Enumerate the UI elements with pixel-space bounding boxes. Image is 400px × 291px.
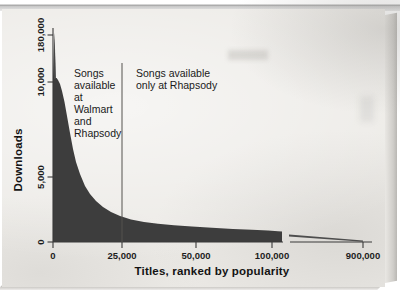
y-axis-tick-labels: 0 5,000 10,000 180,000 xyxy=(35,18,46,245)
y-axis-ticks xyxy=(48,35,54,242)
x-axis-ticks xyxy=(53,242,363,248)
annotation-left-line-4: Walmart xyxy=(74,103,113,115)
annotation-left-line-2: available xyxy=(74,79,116,91)
x-axis-title: Titles, ranked by popularity xyxy=(135,265,290,277)
far-tail-path xyxy=(289,235,363,242)
annotation-right: Songs available only at Rhapsody xyxy=(136,67,218,91)
y-tick-label-5000: 5,000 xyxy=(35,165,46,189)
y-tick-label-180000: 180,000 xyxy=(35,18,46,52)
annotation-left: Songs available at Walmart and Rhapsody xyxy=(74,67,122,139)
annotation-left-line-5: and xyxy=(74,115,92,127)
annotation-left-line-3: at xyxy=(74,91,83,103)
annotation-right-line-1: Songs available xyxy=(136,67,210,79)
x-tick-label-50000: 50,000 xyxy=(181,250,210,261)
x-tick-label-0: 0 xyxy=(50,250,55,261)
long-tail-chart: 0 5,000 10,000 180,000 Downloads 0 25,00… xyxy=(0,0,400,291)
x-axis-tick-labels: 0 25,000 50,000 100,000 900,000 xyxy=(50,250,380,261)
x-tick-label-25000: 25,000 xyxy=(107,250,136,261)
x-tick-label-900000: 900,000 xyxy=(346,250,380,261)
y-tick-label-0: 0 xyxy=(35,239,46,244)
annotation-left-line-1: Songs xyxy=(74,67,104,79)
scanned-page: 0 5,000 10,000 180,000 Downloads 0 25,00… xyxy=(0,0,400,291)
annotation-right-line-2: only at Rhapsody xyxy=(136,79,218,91)
y-tick-label-10000: 10,000 xyxy=(35,67,46,96)
y-axis-title: Downloads xyxy=(12,128,24,191)
annotation-left-line-6: Rhapsody xyxy=(74,127,122,139)
x-tick-label-100000: 100,000 xyxy=(255,250,289,261)
